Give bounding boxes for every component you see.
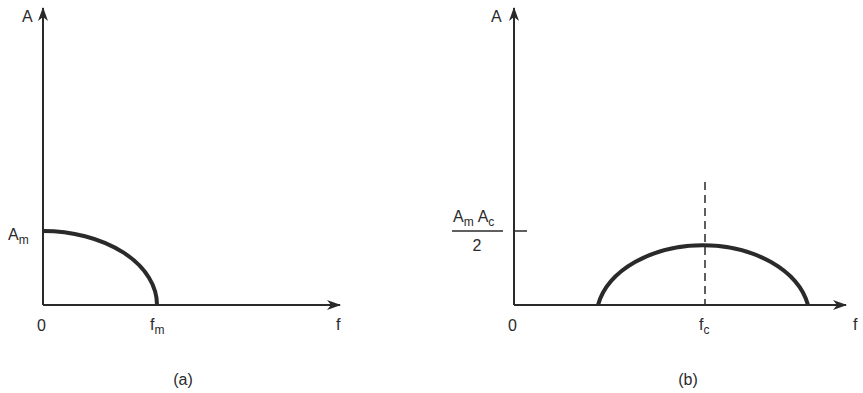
x-tick-label-fm: fm — [150, 316, 164, 337]
y-axis-label-a: A — [22, 8, 33, 25]
y-tick-label-amac-over-2: AmAc 2 — [452, 208, 503, 254]
caption-b: (b) — [678, 371, 698, 388]
x-axis-label-a: f — [336, 316, 341, 333]
spectrum-curve-b — [598, 245, 808, 305]
diagram-canvas: A f 0 Am fm (a) A f 0 AmAc 2 fc (b) — [0, 0, 863, 393]
origin-label-a: 0 — [37, 317, 46, 334]
panel-b: A f 0 AmAc 2 fc (b) — [452, 8, 858, 388]
panel-a: A f 0 Am fm (a) — [8, 8, 341, 388]
svg-text:AmAc: AmAc — [453, 208, 494, 229]
y-axis-label-b: A — [491, 8, 502, 25]
x-axis-label-b: f — [853, 316, 858, 333]
origin-label-b: 0 — [508, 317, 517, 334]
spectrum-curve-a — [43, 231, 157, 305]
svg-text:2: 2 — [473, 237, 482, 254]
x-tick-label-fc: fc — [699, 316, 709, 337]
caption-a: (a) — [173, 371, 193, 388]
y-tick-label-am: Am — [8, 226, 29, 247]
